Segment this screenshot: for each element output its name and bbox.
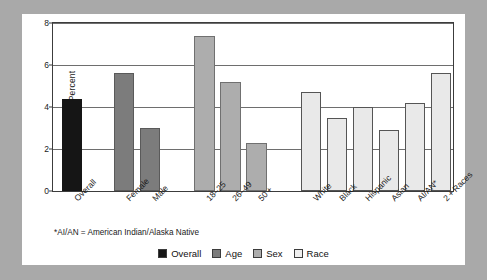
y-tick-label: 6 — [23, 60, 49, 70]
bar — [114, 73, 134, 191]
bar — [220, 82, 240, 191]
legend-swatch — [253, 249, 262, 258]
legend: OverallAgeSexRace — [22, 248, 465, 259]
y-tick-mark — [49, 23, 53, 24]
y-tick-mark — [49, 149, 53, 150]
plot-area: Percent 02468 — [52, 22, 454, 192]
figure-panel: Percent 02468 OverallFemaleMale18–2526–4… — [22, 14, 465, 265]
gridline — [53, 65, 453, 66]
bar — [431, 73, 451, 191]
footnote: *AI/AN = American Indian/Alaska Native — [54, 228, 199, 237]
bar — [194, 36, 214, 191]
y-tick-label: 8 — [23, 18, 49, 28]
y-tick-label: 4 — [23, 102, 49, 112]
y-tick-label: 0 — [23, 186, 49, 196]
bar — [405, 103, 425, 191]
legend-item: Race — [294, 248, 329, 259]
legend-label: Overall — [171, 248, 201, 259]
bar — [353, 107, 373, 191]
legend-item: Age — [212, 248, 242, 259]
legend-swatch — [158, 249, 167, 258]
y-tick-label: 2 — [23, 144, 49, 154]
y-tick-mark — [49, 107, 53, 108]
legend-item: Overall — [158, 248, 201, 259]
legend-label: Age — [225, 248, 242, 259]
y-tick-mark — [49, 191, 53, 192]
y-tick-mark — [49, 65, 53, 66]
bar — [327, 118, 347, 192]
legend-label: Sex — [266, 248, 282, 259]
legend-swatch — [294, 249, 303, 258]
bar — [62, 99, 82, 191]
legend-swatch — [212, 249, 221, 258]
legend-item: Sex — [253, 248, 282, 259]
gridline — [53, 23, 453, 24]
legend-label: Race — [307, 248, 329, 259]
bar — [301, 92, 321, 191]
